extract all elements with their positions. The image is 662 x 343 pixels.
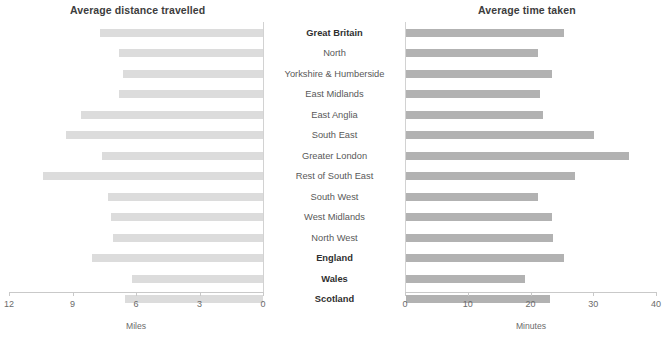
time-bar (406, 152, 629, 160)
distance-bar (132, 275, 263, 283)
time-bar-row (405, 125, 662, 146)
distance-bar (123, 70, 263, 78)
axis-tick-label: 30 (588, 299, 598, 309)
category-label: South West (264, 192, 405, 203)
category-label: West Midlands (264, 212, 405, 223)
time-bar-row (405, 43, 662, 64)
category-label: Yorkshire & Humberside (264, 69, 405, 80)
time-bar (406, 213, 552, 221)
axis-tick (656, 292, 657, 296)
time-bar-row (405, 166, 662, 187)
time-bar-row (405, 84, 662, 105)
time-bar-rows (405, 22, 662, 292)
category-label: Scotland (264, 294, 405, 305)
axis-tick (73, 292, 74, 296)
distance-bar (81, 111, 263, 119)
category-label: England (264, 253, 405, 264)
distance-bar-row (0, 248, 264, 269)
time-bar (406, 275, 525, 283)
distance-bar (108, 193, 263, 201)
time-bar-row (405, 228, 662, 249)
time-bar (406, 193, 538, 201)
distance-bar (102, 152, 263, 160)
distance-bar-row (0, 269, 264, 290)
time-bar-row (405, 105, 662, 126)
time-bar (406, 131, 594, 139)
distance-bar (113, 234, 263, 242)
time-bar (406, 234, 553, 242)
axis-tick-label: 10 (463, 299, 473, 309)
time-chart-plot (405, 22, 662, 292)
time-axis-title: Minutes (516, 321, 546, 331)
axis-tick-label: 12 (4, 299, 14, 309)
axis-tick-label: 20 (525, 299, 535, 309)
category-label: North (264, 48, 405, 59)
left-panel-title: Average distance travelled (70, 4, 205, 16)
distance-bar-row (0, 23, 264, 44)
axis-tick (9, 292, 10, 296)
category-label: North West (264, 233, 405, 244)
time-bar (406, 172, 575, 180)
distance-bar (100, 29, 263, 37)
axis-tick (531, 292, 532, 296)
time-bar-row (405, 146, 662, 167)
axis-tick-label: 0 (402, 299, 407, 309)
axis-tick (405, 292, 406, 296)
distance-axis-title: Miles (126, 321, 146, 331)
chart-page: Average distance travelled Average time … (0, 0, 662, 343)
category-label: Greater London (264, 151, 405, 162)
axis-tick-label: 3 (197, 299, 202, 309)
category-label: Rest of South East (264, 171, 405, 182)
distance-bar-row (0, 43, 264, 64)
category-label: East Anglia (264, 110, 405, 121)
time-bar-row (405, 248, 662, 269)
axis-tick (200, 292, 201, 296)
axis-tick (263, 292, 264, 296)
category-label: Great Britain (264, 28, 405, 39)
distance-bar-rows (0, 22, 264, 292)
time-bar-row (405, 187, 662, 208)
distance-bar (119, 49, 263, 57)
time-bar (406, 111, 543, 119)
distance-bar-row (0, 105, 264, 126)
distance-bar (92, 254, 263, 262)
axis-tick (468, 292, 469, 296)
category-label: South East (264, 130, 405, 141)
distance-bar (111, 213, 263, 221)
axis-tick-label: 0 (260, 299, 265, 309)
distance-bar (43, 172, 263, 180)
axis-tick (593, 292, 594, 296)
axis-tick (136, 292, 137, 296)
distance-chart-plot (0, 22, 264, 292)
distance-bar-row (0, 125, 264, 146)
time-bar-row (405, 23, 662, 44)
distance-bar-row (0, 228, 264, 249)
time-bar-row (405, 269, 662, 290)
axis-tick-label: 40 (651, 299, 661, 309)
axis-tick-label: 6 (133, 299, 138, 309)
time-bar (406, 29, 564, 37)
distance-bar (66, 131, 263, 139)
time-bar (406, 49, 538, 57)
distance-bar-row (0, 207, 264, 228)
time-bar (406, 70, 552, 78)
time-bar (406, 90, 540, 98)
distance-bar (125, 295, 263, 303)
category-label: Wales (264, 274, 405, 285)
time-bar (406, 254, 564, 262)
distance-bar-row (0, 187, 264, 208)
right-panel-title: Average time taken (478, 4, 576, 16)
distance-bar-row (0, 166, 264, 187)
distance-bar-row (0, 84, 264, 105)
distance-bar (119, 90, 263, 98)
time-bar-row (405, 64, 662, 85)
axis-tick-label: 9 (70, 299, 75, 309)
category-label-column: Great BritainNorthYorkshire & Humberside… (264, 22, 405, 292)
distance-bar-row (0, 64, 264, 85)
time-bar-row (405, 207, 662, 228)
category-label: East Midlands (264, 89, 405, 100)
distance-bar-row (0, 146, 264, 167)
